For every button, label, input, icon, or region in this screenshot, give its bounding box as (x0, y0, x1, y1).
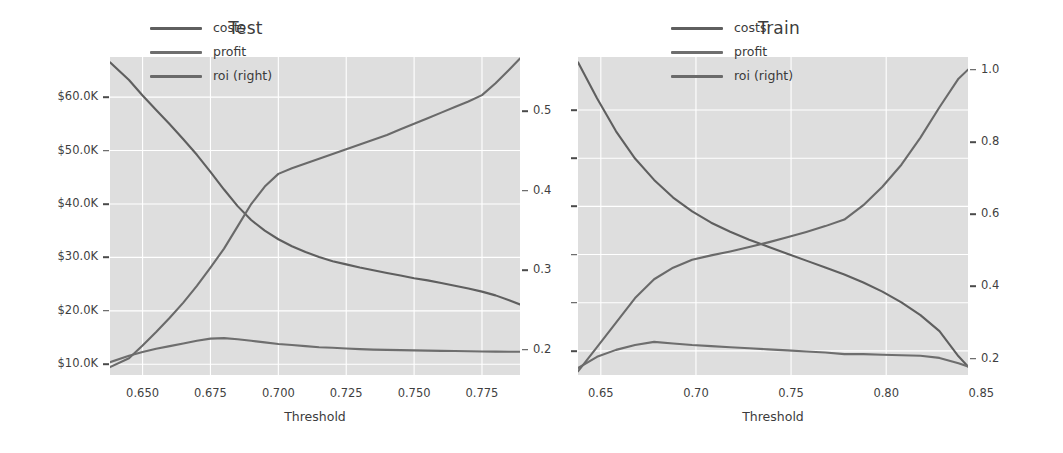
y-tick-label-left: $60.0K (58, 91, 98, 103)
y-tick-mark-left (571, 109, 577, 111)
x-tick-label: 0.700 (262, 388, 295, 400)
y-tick-mark-left (571, 350, 577, 352)
y-tick-mark-left (103, 257, 109, 259)
figure-canvas: Test 0.6500.6750.7000.7250.7500.775$60.0… (0, 0, 1063, 453)
y-tick-mark-left (571, 206, 577, 208)
legend-item-roi[interactable]: roi (right) (150, 70, 272, 83)
x-tick-label: 0.70 (683, 388, 709, 400)
x-axis-label-test: Threshold (284, 409, 346, 424)
legend-label: profit (213, 46, 246, 59)
legend-swatch-profit (150, 51, 202, 53)
y-tick-mark-right (970, 213, 976, 215)
x-tick-label: 0.775 (466, 388, 499, 400)
legend-train: costsprofitroi (right) (671, 22, 793, 83)
legend-item-profit[interactable]: profit (150, 46, 272, 59)
legend-item-roi[interactable]: roi (right) (671, 70, 793, 83)
panel-test: Test 0.6500.6750.7000.7250.7500.775$60.0… (0, 0, 531, 453)
y-tick-mark-right (970, 286, 976, 288)
y-tick-label-left: $20.0K (58, 305, 98, 317)
legend-label: roi (right) (734, 70, 793, 83)
y-tick-mark-right (522, 269, 528, 271)
x-tick-label: 0.750 (398, 388, 431, 400)
y-tick-mark-left (103, 150, 109, 152)
series-line-costs (578, 62, 968, 366)
y-tick-mark-right (970, 141, 976, 143)
x-axis-label-train: Threshold (742, 409, 804, 424)
legend-label: costs (734, 22, 766, 35)
legend-swatch-costs (150, 27, 202, 29)
y-tick-mark-right (970, 358, 976, 360)
series-line-costs (110, 62, 520, 304)
y-tick-mark-right (522, 110, 528, 112)
x-tick-label: 0.80 (873, 388, 899, 400)
y-tick-label-right: 0.6 (981, 208, 999, 220)
plot-area-test (110, 57, 520, 375)
y-tick-label-right: 0.2 (981, 353, 999, 365)
y-tick-label-right: 0.8 (981, 136, 999, 148)
x-tick-label: 0.650 (126, 388, 159, 400)
y-tick-mark-left (571, 254, 577, 256)
series-line-roi (110, 59, 520, 367)
y-tick-label-left: $10.0K (58, 359, 98, 371)
y-tick-label-left: $30.0K (58, 252, 98, 264)
legend-swatch-roi (150, 75, 202, 77)
legend-label: profit (734, 46, 767, 59)
y-tick-label-right: 0.4 (981, 281, 999, 293)
legend-swatch-roi (671, 75, 723, 77)
plot-canvas-test (110, 57, 520, 375)
y-tick-mark-left (103, 96, 109, 98)
x-tick-label: 0.75 (778, 388, 804, 400)
y-tick-mark-left (103, 364, 109, 366)
series-line-profit (110, 338, 520, 362)
x-tick-label: 0.725 (330, 388, 363, 400)
x-tick-label: 0.85 (969, 388, 995, 400)
series-line-profit (578, 342, 968, 368)
y-tick-mark-left (571, 157, 577, 159)
y-tick-label-left: $50.0K (58, 145, 98, 157)
plot-area-train (578, 57, 968, 375)
legend-swatch-profit (671, 51, 723, 53)
y-tick-mark-left (103, 310, 109, 312)
y-tick-label-left: $40.0K (58, 198, 98, 210)
legend-item-costs[interactable]: costs (150, 22, 272, 35)
x-tick-label: 0.65 (588, 388, 614, 400)
legend-label: costs (213, 22, 245, 35)
legend-item-profit[interactable]: profit (671, 46, 793, 59)
y-tick-label-right: 1.0 (981, 64, 999, 76)
y-tick-mark-right (522, 349, 528, 351)
legend-swatch-costs (671, 27, 723, 29)
y-tick-mark-right (522, 190, 528, 192)
legend-test: costsprofitroi (right) (150, 22, 272, 83)
plot-canvas-train (578, 57, 968, 375)
legend-label: roi (right) (213, 70, 272, 83)
y-tick-mark-right (970, 69, 976, 71)
series-line-roi (578, 70, 968, 372)
gridlines (578, 57, 968, 375)
legend-item-costs[interactable]: costs (671, 22, 793, 35)
y-tick-mark-left (571, 302, 577, 304)
panel-train: Train 0.650.700.750.800.851.00.80.60.40.… (531, 0, 1063, 453)
y-tick-mark-left (103, 203, 109, 205)
x-tick-label: 0.675 (194, 388, 227, 400)
